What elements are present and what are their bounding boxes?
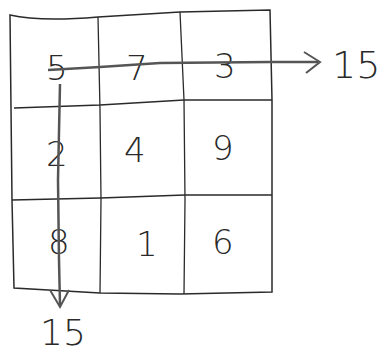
cell-r2c3: 9 xyxy=(212,128,234,168)
cell-r2c2: 4 xyxy=(124,130,146,170)
grid-line xyxy=(98,17,101,293)
grid-line xyxy=(12,195,272,200)
cell-r3c3: 6 xyxy=(212,222,234,262)
column-sum-arrow xyxy=(58,84,60,305)
grid-line xyxy=(14,100,272,108)
grid-line xyxy=(180,12,185,294)
row-sum-label: 15 xyxy=(332,43,380,87)
cell-r1c2: 7 xyxy=(126,48,148,88)
cell-r1c3: 3 xyxy=(214,46,236,86)
column-sum-label: 15 xyxy=(40,312,86,353)
cell-r2c1: 2 xyxy=(46,134,68,174)
magic-square-diagram: 5 7 3 2 4 9 8 1 6 15 15 xyxy=(0,0,384,359)
cell-r3c2: 1 xyxy=(136,224,158,264)
